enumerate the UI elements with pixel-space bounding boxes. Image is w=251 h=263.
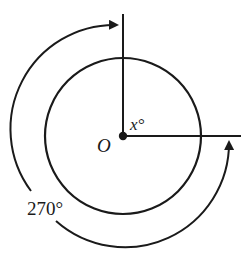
center-point (119, 132, 127, 140)
diagram-canvas: O x° 270° (0, 0, 251, 263)
angle-arc-lower (56, 142, 229, 247)
center-label: O (97, 135, 111, 156)
outer-angle-label: 270° (27, 198, 63, 219)
angle-arc-upper (10, 25, 117, 191)
inner-angle-label: x° (129, 115, 145, 134)
